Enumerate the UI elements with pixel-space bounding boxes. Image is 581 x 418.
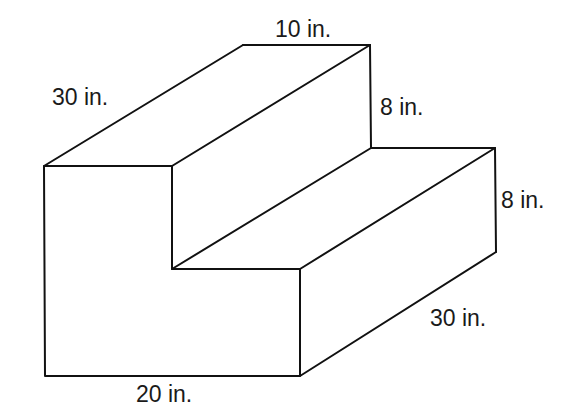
lower-riser-label: 8 in. <box>501 189 544 212</box>
lower-tread-front-depth-edge <box>300 148 495 269</box>
front-face-outline <box>44 166 300 376</box>
lower-tread-inner-depth-edge <box>172 148 371 269</box>
lower-riser-right-edge <box>495 148 496 252</box>
upper-riser-right-edge <box>370 45 371 148</box>
left-depth-label: 30 in. <box>52 86 108 109</box>
stair-solid-drawing <box>0 0 581 418</box>
bottom-width-label: 20 in. <box>136 383 192 406</box>
top-width-label: 10 in. <box>275 18 331 41</box>
stair-solid-diagram: 10 in. 30 in. 8 in. 8 in. 30 in. 20 in. <box>0 0 581 418</box>
upper-riser-label: 8 in. <box>380 96 423 119</box>
right-depth-label: 30 in. <box>430 307 486 330</box>
upper-top-front-depth-edge <box>172 45 370 166</box>
